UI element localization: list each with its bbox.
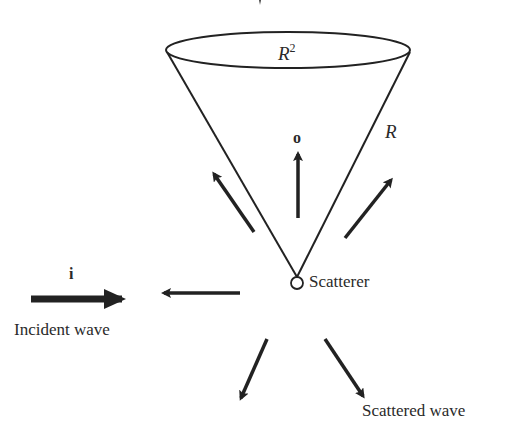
diagram-canvas xyxy=(0,0,511,446)
cone-area-base: R xyxy=(278,43,290,64)
arrow-upper-left xyxy=(214,174,254,232)
scattering-diagram: R2 R o i Incident wave Scatterer Scatter… xyxy=(0,0,511,446)
cone xyxy=(166,32,410,277)
incident-vector-label: i xyxy=(69,266,73,282)
cone-area-exponent: 2 xyxy=(290,41,296,55)
arrow-lower-right xyxy=(325,339,363,396)
outgoing-vector-label: o xyxy=(293,130,301,146)
arrow-lower-left xyxy=(241,339,267,398)
scatterer-circle xyxy=(291,277,303,289)
scatterer-label: Scatterer xyxy=(309,273,369,290)
arrow-upper-right xyxy=(345,180,391,238)
cropped-glyph-fragment xyxy=(259,0,261,5)
cone-radius-label: R xyxy=(385,122,397,141)
incident-wave-label: Incident wave xyxy=(14,321,110,338)
cone-area-label: R2 xyxy=(278,42,296,63)
cone-right-edge xyxy=(297,52,410,277)
cone-left-edge xyxy=(167,52,297,277)
scattered-wave-label: Scattered wave xyxy=(362,402,465,419)
